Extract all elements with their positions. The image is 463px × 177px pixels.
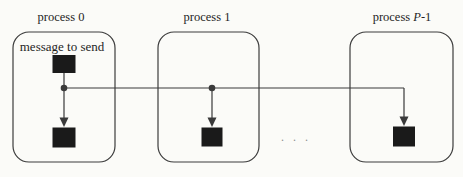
message-to-send-label: message to send [20,39,105,54]
process-0-branch-dot [61,85,68,92]
process-0-source-message-node [53,55,76,73]
diagram-page: process 0 process 1 process P-1 message … [0,0,463,177]
process-p-minus-1-label-variable: P [412,10,421,24]
process-p-minus-1-label: process P-1 [373,10,432,24]
process-0-arrowhead-icon [60,118,69,128]
process-1-branch-dot [209,85,216,92]
process-p-minus-1-label-prefix: process [373,10,414,24]
process-0-label: process 0 [38,10,85,24]
process-1-arrowhead-icon [208,118,217,128]
process-0-received-message-node [53,128,76,148]
broadcast-diagram-canvas: process 0 process 1 process P-1 message … [0,0,463,177]
process-p-minus-1-label-suffix: -1 [421,10,431,24]
ellipsis-label: . . . [281,130,311,144]
process-1-received-message-node [202,128,223,147]
process-1-label: process 1 [184,10,231,24]
process-p-minus-1-received-message-node [393,127,415,147]
process-p-minus-1-arrowhead-icon [400,117,409,127]
